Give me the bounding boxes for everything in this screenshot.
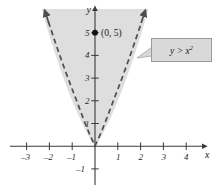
x-axis-label: x <box>205 150 209 160</box>
y-tick-label-5: 5 <box>85 29 90 38</box>
inequality-callout-box: y > x2 <box>151 38 212 62</box>
x-tick-label--1: –1 <box>67 153 76 162</box>
x-tick-label--2: –2 <box>44 153 53 162</box>
y-tick-label--1: –1 <box>76 165 85 174</box>
y-tick-label-3: 3 <box>85 74 90 83</box>
x-tick-label-3: 3 <box>162 153 167 162</box>
y-tick-label-1: 1 <box>85 120 90 129</box>
y-axis-label: y <box>87 5 91 15</box>
x-tick-label-4: 4 <box>184 153 189 162</box>
y-tick-label-2: 2 <box>85 97 90 106</box>
inequality-exponent: 2 <box>190 44 193 51</box>
inequality-expression: y > x <box>170 46 190 56</box>
callout-leader-line <box>137 47 152 58</box>
plotted-point-marker <box>92 30 98 36</box>
x-tick-label--3: –3 <box>21 153 30 162</box>
x-tick-label-1: 1 <box>116 153 121 162</box>
inequality-callout-text: y > x2 <box>170 44 193 56</box>
x-tick-label-2: 2 <box>139 153 144 162</box>
graph-figure: –3 –2 –1 1 2 3 4 –1 1 2 3 4 5 x y (0, 5)… <box>0 0 220 192</box>
y-tick-label-4: 4 <box>85 51 90 60</box>
point-coordinate-label: (0, 5) <box>101 29 122 39</box>
